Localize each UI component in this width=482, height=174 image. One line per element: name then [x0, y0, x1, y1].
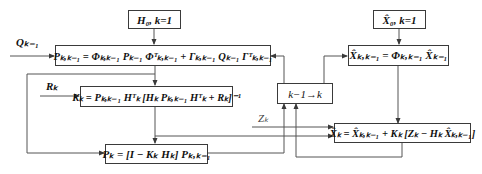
kalman-filter-diagram: H₀, k=1 Pₖ,ₖ₋₁ = Φₖ,ₖ₋₁ Pₖ₋₁ Φᵀₖ,ₖ₋₁ + Γ… — [0, 0, 482, 174]
h0-init-box: H₀, k=1 — [128, 10, 181, 29]
x0-init-label: X̂₀, k=1 — [383, 14, 417, 26]
covariance-update-equation: Pₖ = [I − Kₖ Hₖ] Pₖ,ₖ₋₁ — [103, 148, 211, 161]
q-input-label: Qₖ₋₁ — [16, 36, 39, 49]
h0-init-label: H₀, k=1 — [137, 14, 172, 26]
r-input-label: Rₖ — [46, 80, 58, 93]
state-predict-box: X̂ₖ,ₖ₋₁ = Φₖ,ₖ₋₁ X̂ₖ₋₁ — [348, 45, 449, 66]
z-input-label: Zₖ — [258, 112, 269, 125]
time-step-label: k−1→k — [288, 88, 322, 100]
time-step-box: k−1→k — [277, 83, 333, 104]
covariance-predict-equation: Pₖ,ₖ₋₁ = Φₖ,ₖ₋₁ Pₖ₋₁ Φᵀₖ,ₖ₋₁ + Γₖ,ₖ₋₁ Qₖ… — [54, 50, 273, 62]
covariance-update-box: Pₖ = [I − Kₖ Hₖ] Pₖ,ₖ₋₁ — [105, 144, 208, 164]
kalman-gain-equation: Kₖ = Pₖ,ₖ₋₁ Hᵀₖ [Hₖ Pₖ,ₖ₋₁ Hᵀₖ + Rₖ]⁻¹ — [72, 91, 241, 103]
x0-init-box: X̂₀, k=1 — [373, 10, 426, 29]
state-predict-equation: X̂ₖ,ₖ₋₁ = Φₖ,ₖ₋₁ X̂ₖ₋₁ — [350, 49, 448, 62]
state-update-box: X̂ₖ = X̂ₖ,ₖ₋₁ + Kₖ [Zₖ − Hₖ X̂ₖ,ₖ₋₁] — [334, 123, 471, 143]
state-update-equation: X̂ₖ = X̂ₖ,ₖ₋₁ + Kₖ [Zₖ − Hₖ X̂ₖ,ₖ₋₁] — [330, 127, 476, 139]
kalman-gain-box: Kₖ = Pₖ,ₖ₋₁ Hᵀₖ [Hₖ Pₖ,ₖ₋₁ Hᵀₖ + Rₖ]⁻¹ — [80, 86, 233, 107]
covariance-predict-box: Pₖ,ₖ₋₁ = Φₖ,ₖ₋₁ Pₖ₋₁ Φᵀₖ,ₖ₋₁ + Γₖ,ₖ₋₁ Qₖ… — [55, 45, 271, 66]
